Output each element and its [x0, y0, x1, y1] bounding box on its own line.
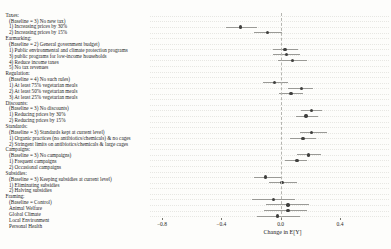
zero-reference-line: [281, 13, 282, 219]
point-estimate: [286, 203, 289, 206]
point-estimate: [285, 53, 288, 56]
x-tick-label: −0.8: [157, 221, 167, 227]
row-gridline: [150, 99, 389, 100]
row-gridline: [150, 44, 389, 45]
point-estimate: [295, 159, 298, 162]
point-estimate: [310, 131, 313, 134]
row-gridline: [150, 105, 389, 106]
row-gridline: [150, 188, 389, 189]
row-gridline: [150, 122, 389, 123]
row-gridline: [150, 144, 389, 145]
x-tick-label: −0.4: [216, 221, 226, 227]
row-gridline: [150, 66, 389, 67]
point-estimate: [276, 214, 279, 217]
point-estimate: [272, 198, 275, 201]
confidence-interval: [254, 177, 282, 178]
row-gridline: [150, 21, 389, 22]
point-estimate: [289, 92, 292, 95]
point-estimate: [273, 81, 276, 84]
row-gridline: [150, 138, 389, 139]
x-tick-label: 0.0: [277, 221, 284, 227]
row-gridline: [150, 16, 389, 17]
row-gridline: [150, 127, 389, 128]
row-gridline: [150, 94, 389, 95]
x-axis-label: Change in E[Y]: [264, 229, 302, 236]
category-label: Personal Health: [9, 223, 42, 229]
point-estimate: [300, 87, 303, 90]
row-gridline: [150, 149, 389, 150]
point-estimate: [283, 48, 286, 51]
row-gridline: [150, 49, 389, 50]
row-gridline: [150, 60, 389, 61]
row-gridline: [150, 27, 389, 28]
forest-plot-figure: Taxes:(Baseline = 3) No new tax)1) Incre…: [0, 0, 391, 249]
point-estimate: [307, 153, 310, 156]
point-estimate: [266, 31, 269, 34]
point-estimate: [239, 25, 242, 28]
row-gridline: [150, 88, 389, 89]
confidence-interval: [300, 132, 327, 133]
row-gridline: [150, 172, 389, 173]
row-gridline: [150, 110, 389, 111]
row-gridline: [150, 133, 389, 134]
point-estimate: [304, 114, 307, 117]
point-estimate: [291, 59, 294, 62]
point-estimate: [286, 209, 289, 212]
row-gridline: [150, 155, 389, 156]
row-gridline: [150, 194, 389, 195]
row-gridline: [150, 116, 389, 117]
row-gridline: [150, 55, 389, 56]
point-estimate: [301, 137, 304, 140]
row-gridline: [150, 160, 389, 161]
row-gridline: [150, 38, 389, 39]
row-gridline: [150, 72, 389, 73]
row-gridline: [150, 77, 389, 78]
row-gridline: [150, 166, 389, 167]
x-tick-label: 0.4: [337, 221, 344, 227]
point-estimate: [264, 175, 267, 178]
